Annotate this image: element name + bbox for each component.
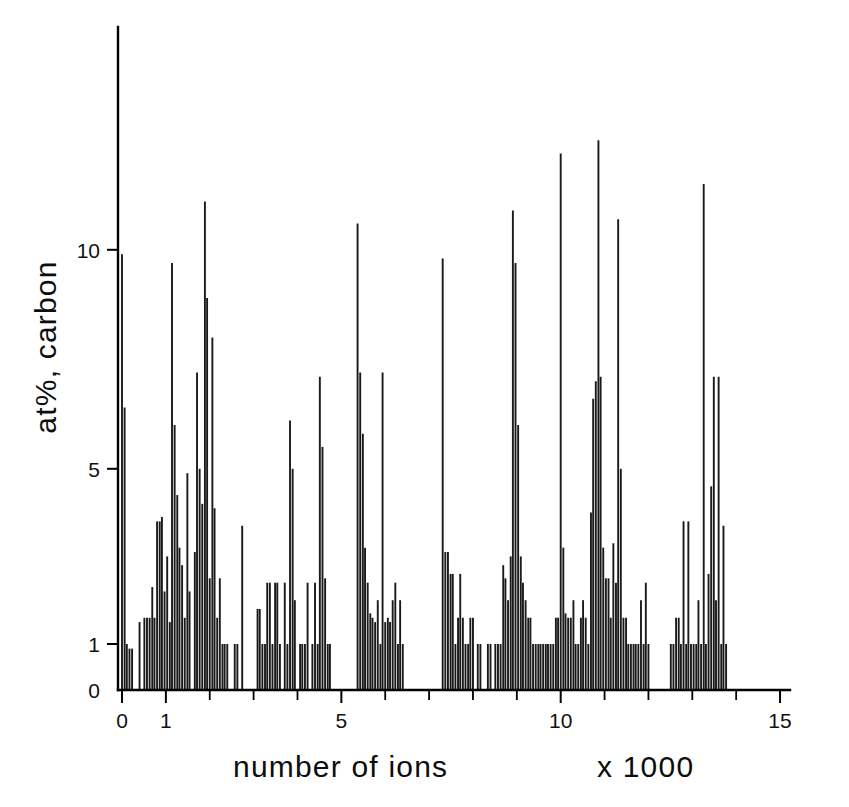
x-axis-tick-label: 1 [160, 709, 172, 732]
y-axis-tick-label: 0 [88, 679, 100, 702]
plot-canvas: 015100151015 [0, 0, 849, 807]
carbon-concentration-figure: 015100151015 at%, carbon number of ions … [0, 0, 849, 807]
y-axis-tick-label: 10 [77, 239, 100, 262]
x-axis-tick-label: 0 [116, 709, 128, 732]
x-axis-tick-label: 15 [768, 709, 791, 732]
y-axis-title: at%, carbon [29, 217, 63, 477]
x-axis-tick-label: 5 [336, 709, 348, 732]
x-axis-multiplier-label: x 1000 [597, 750, 694, 784]
x-axis-title: number of ions [233, 750, 448, 784]
y-axis-tick-label: 1 [88, 633, 100, 656]
spike-series [122, 140, 726, 690]
y-axis-tick-label: 5 [88, 458, 100, 481]
x-axis-tick-label: 10 [549, 709, 572, 732]
